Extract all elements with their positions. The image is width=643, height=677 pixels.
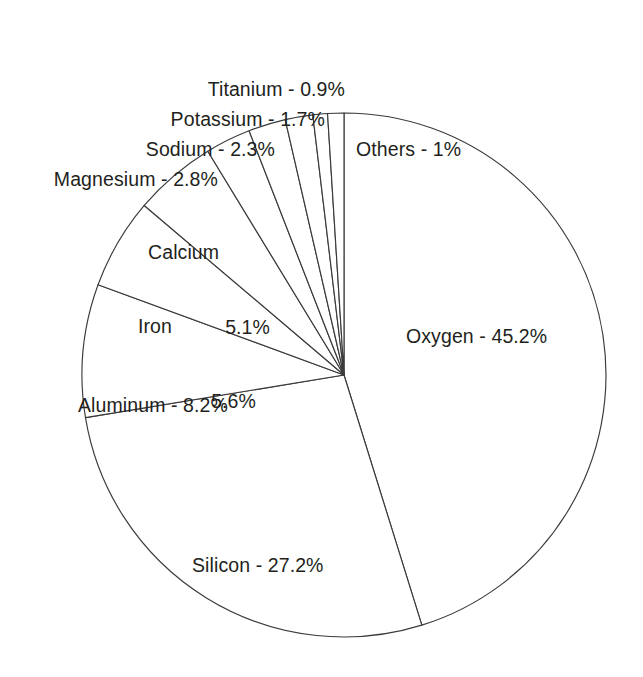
slice-label-others: Others - 1% xyxy=(356,87,536,212)
slice-label-silicon: Silicon - 27.2% xyxy=(192,503,392,628)
slice-label-others-text: Others - 1% xyxy=(356,137,536,162)
slice-label-iron-name: Iron xyxy=(138,314,256,339)
slice-label-aluminum-text: Aluminum - 8.2% xyxy=(78,393,308,418)
slice-label-silicon-text: Silicon - 27.2% xyxy=(192,553,392,578)
slice-label-oxygen: Oxygen - 45.2% xyxy=(406,274,606,399)
slice-label-calcium-name: Calcium xyxy=(148,240,270,265)
slice-label-magnesium-text: Magnesium - 2.8% xyxy=(33,167,218,192)
pie-chart: Titanium - 0.9% Potassium - 1.7% Sodium … xyxy=(0,0,643,677)
slice-label-aluminum: Aluminum - 8.2% xyxy=(78,343,308,468)
slice-label-oxygen-text: Oxygen - 45.2% xyxy=(406,324,606,349)
